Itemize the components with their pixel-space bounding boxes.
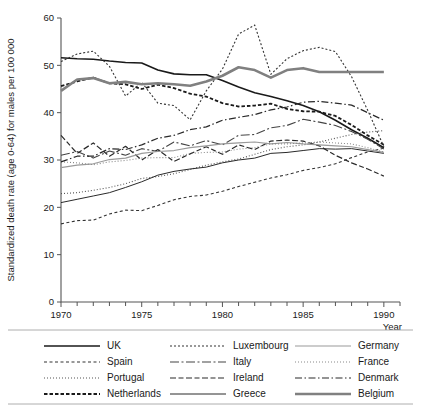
series-line-belgium [61,67,384,91]
legend-label-denmark: Denmark [358,372,400,383]
y-tick-label: 40 [43,107,54,118]
legend-item-spain[interactable]: Spain [44,356,133,367]
legend-item-luxembourg[interactable]: Luxembourg [170,340,289,351]
series-line-netherlands [61,78,384,145]
legend-label-greece: Greece [233,388,266,399]
series-line-denmark [61,101,384,162]
legend-item-netherlands[interactable]: Netherlands [44,388,161,399]
legend-item-belgium[interactable]: Belgium [295,388,394,399]
legend-item-uk[interactable]: UK [44,340,121,351]
y-tick-label: 50 [43,60,54,71]
legend-item-ireland[interactable]: Ireland [170,372,264,383]
legend-item-france[interactable]: France [295,356,390,367]
legend-item-greece[interactable]: Greece [170,388,266,399]
legend-item-portugal[interactable]: Portugal [44,372,144,383]
legend-label-ireland: Ireland [233,372,264,383]
x-tick-label: 1970 [50,309,71,320]
x-tick-label: 1975 [131,309,152,320]
series-line-ireland [61,135,384,176]
legend-item-italy[interactable]: Italy [170,356,251,367]
x-tick-label: 1990 [373,309,394,320]
y-tick-label: 60 [43,12,54,23]
legend-label-italy: Italy [233,356,251,367]
x-tick-label: 1985 [293,309,314,320]
y-tick-label: 20 [43,202,54,213]
legend-item-denmark[interactable]: Denmark [295,372,400,383]
legend-label-luxembourg: Luxembourg [233,340,289,351]
line-chart: 010203040506019701975198019851990Standar… [0,0,421,407]
chart-figure: 010203040506019701975198019851990Standar… [0,0,421,407]
legend-label-portugal: Portugal [107,372,144,383]
legend-item-germany[interactable]: Germany [295,340,399,351]
y-tick-label: 30 [43,154,54,165]
series-group [61,25,384,224]
x-tick-label: 1980 [212,309,233,320]
y-tick-label: 0 [49,296,54,307]
legend-label-spain: Spain [107,356,133,367]
legend-label-uk: UK [107,340,121,351]
legend-label-france: France [358,356,390,367]
axes-group: 010203040506019701975198019851990Standar… [5,12,402,332]
y-tick-label: 10 [43,249,54,260]
y-axis-title: Standardized death rate (age 0-64) for m… [5,39,16,282]
legend-label-belgium: Belgium [358,388,394,399]
legend: UKSpainPortugalNetherlandsLuxembourgItal… [8,330,413,404]
series-line-luxembourg [61,25,384,147]
legend-label-netherlands: Netherlands [107,388,161,399]
legend-label-germany: Germany [358,340,399,351]
